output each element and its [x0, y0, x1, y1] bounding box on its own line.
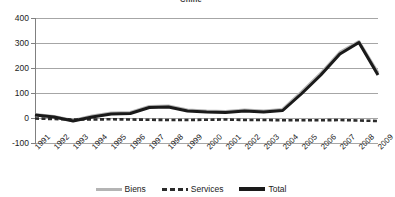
y-tick-label: 100	[15, 88, 29, 98]
dashed-line-swatch-icon	[162, 188, 188, 191]
legend-item-total: Total	[239, 184, 286, 194]
x-axis-labels: 1991199219931994199519961997199819992000…	[35, 143, 378, 183]
y-tick-label: 400	[15, 13, 29, 23]
legend-label-biens: Biens	[125, 184, 146, 194]
y-tick-label: 300	[15, 38, 29, 48]
legend-item-biens: Biens	[96, 184, 146, 194]
y-axis-labels: 4003002001000-100	[0, 0, 33, 197]
legend-item-services: Services	[162, 184, 224, 194]
x-tick-label: 2009	[376, 132, 395, 151]
chart-title: Chine	[0, 0, 382, 4]
series-line-biens	[35, 42, 378, 121]
y-tick-label: -100	[12, 138, 29, 148]
y-tick-label: 0	[24, 113, 29, 123]
line-swatch-icon	[96, 188, 122, 191]
legend-label-services: Services	[191, 184, 224, 194]
legend-label-total: Total	[268, 184, 286, 194]
chart-legend: Biens Services Total	[0, 184, 382, 194]
plot-area	[35, 18, 378, 143]
series-lines	[35, 18, 378, 143]
series-line-total	[35, 43, 378, 122]
y-tick-label: 200	[15, 63, 29, 73]
thick-line-swatch-icon	[239, 187, 265, 191]
